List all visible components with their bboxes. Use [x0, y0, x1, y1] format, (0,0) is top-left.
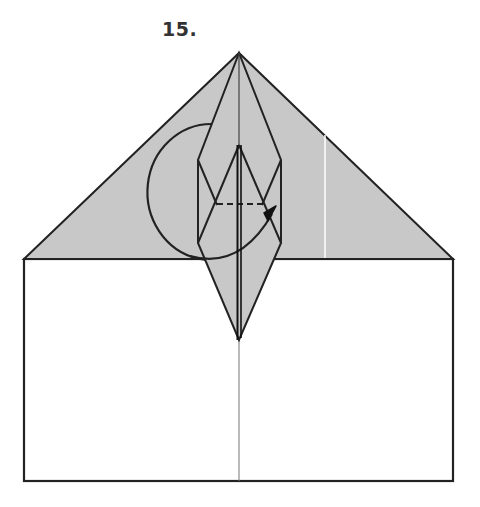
- origami-diagram: [0, 0, 480, 507]
